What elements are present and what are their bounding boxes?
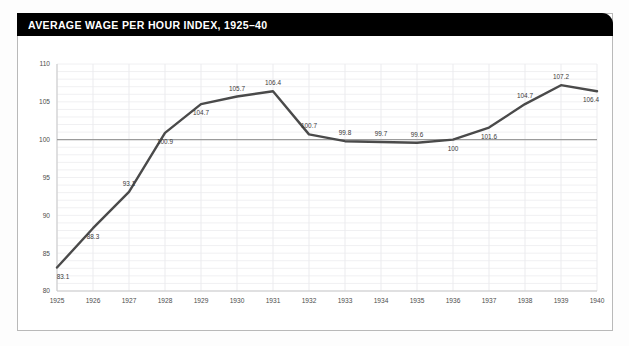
y-axis-tick-label: 105 xyxy=(39,98,50,105)
y-axis-tick-label: 85 xyxy=(43,250,51,257)
x-axis-tick-label: 1933 xyxy=(338,297,353,304)
x-axis-tick-label: 1937 xyxy=(482,297,497,304)
y-axis-tick-label: 95 xyxy=(43,174,51,181)
data-point-label: 101.6 xyxy=(481,133,497,140)
y-axis-tick-label: 110 xyxy=(39,60,50,67)
data-point-label: 106.4 xyxy=(265,79,281,86)
chart-screenshot: AVERAGE WAGE PER HOUR INDEX, 1925–40 808… xyxy=(0,0,629,346)
x-axis-tick-label: 1927 xyxy=(122,297,137,304)
data-point-label: 99.8 xyxy=(339,129,352,136)
data-point-label: 107.2 xyxy=(553,73,569,80)
x-axis-tick-label: 1939 xyxy=(554,297,569,304)
x-axis-tick-label: 1929 xyxy=(194,297,209,304)
x-axis-tick-label: 1926 xyxy=(86,297,101,304)
chart-title-bar: AVERAGE WAGE PER HOUR INDEX, 1925–40 xyxy=(17,13,613,36)
y-axis-tick-label: 100 xyxy=(39,136,50,143)
data-series-line xyxy=(57,85,597,267)
x-axis-tick-label: 1936 xyxy=(446,297,461,304)
x-axis-tick-label: 1930 xyxy=(230,297,245,304)
data-point-label: 83.1 xyxy=(57,273,70,280)
y-axis-tick-label: 90 xyxy=(43,212,51,219)
data-point-label: 100.9 xyxy=(157,138,173,145)
data-point-label: 104.7 xyxy=(517,92,533,99)
line-chart-svg: 8085909510010511019251926192719281929193… xyxy=(17,36,613,331)
data-point-label: 93.1 xyxy=(123,180,136,187)
data-point-label: 100 xyxy=(448,145,459,152)
x-axis-tick-label: 1935 xyxy=(410,297,425,304)
data-point-label: 99.7 xyxy=(375,130,388,137)
data-point-label: 106.4 xyxy=(583,96,599,103)
plot-area: 8085909510010511019251926192719281929193… xyxy=(17,36,613,331)
data-point-label: 104.7 xyxy=(193,109,209,116)
x-axis-tick-label: 1940 xyxy=(590,297,605,304)
x-axis-tick-label: 1925 xyxy=(50,297,65,304)
x-axis-tick-label: 1934 xyxy=(374,297,389,304)
y-axis-tick-label: 80 xyxy=(43,287,51,294)
x-axis-tick-label: 1938 xyxy=(518,297,533,304)
data-point-label: 88.3 xyxy=(87,233,100,240)
data-point-label: 100.7 xyxy=(301,122,317,129)
x-axis-tick-label: 1928 xyxy=(158,297,173,304)
x-axis-tick-label: 1932 xyxy=(302,297,317,304)
x-axis-tick-label: 1931 xyxy=(266,297,281,304)
data-point-label: 105.7 xyxy=(229,85,245,92)
data-point-label: 99.6 xyxy=(411,131,424,138)
page-title: AVERAGE WAGE PER HOUR INDEX, 1925–40 xyxy=(28,19,268,31)
